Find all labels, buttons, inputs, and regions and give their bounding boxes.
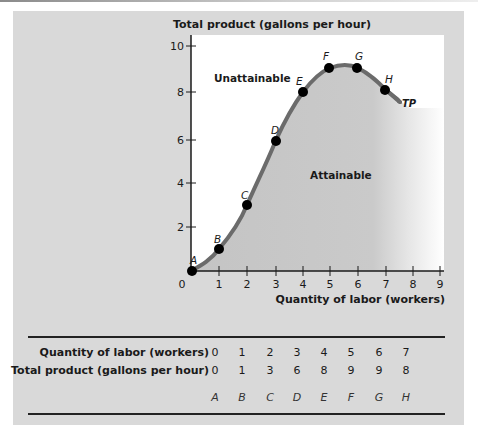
table-point-label: D <box>287 391 307 404</box>
y-tick-label: 6 <box>177 134 184 147</box>
x-tick-label: 8 <box>410 278 417 291</box>
point-label-g: G <box>355 50 363 62</box>
point-d <box>271 136 281 146</box>
table-cell: 1 <box>232 364 252 377</box>
table-cell: 8 <box>396 364 416 377</box>
table-cell: 7 <box>396 346 416 359</box>
unattainable-label: Unattainable <box>214 72 291 84</box>
table-cell: 1 <box>232 346 252 359</box>
point-h <box>380 85 390 95</box>
point-b <box>214 244 224 254</box>
y-tick-label: 2 <box>177 221 184 234</box>
table-cell: 5 <box>341 346 361 359</box>
point-label-f: F <box>323 50 330 62</box>
table-cell: 0 <box>205 346 225 359</box>
table-cell: 2 <box>260 346 280 359</box>
table-cell: 9 <box>369 364 389 377</box>
table-bottom-rule <box>28 413 445 415</box>
table-row-point-labels: A B C D E F G H <box>28 391 445 405</box>
table-cell: 0 <box>205 364 225 377</box>
table-cell: 9 <box>341 364 361 377</box>
row-label: Quantity of labor (workers) <box>40 346 209 359</box>
attainable-label: Attainable <box>310 169 372 181</box>
x-tick-label: 2 <box>244 278 251 291</box>
x-tick-label: 9 <box>437 278 444 291</box>
table-point-label: B <box>232 391 252 404</box>
table-top-rule <box>28 336 445 338</box>
x-tick-label: 5 <box>327 278 334 291</box>
point-label-h: H <box>385 73 393 85</box>
table-point-label: A <box>205 391 225 404</box>
table-cell: 8 <box>314 364 334 377</box>
table-cell: 4 <box>314 346 334 359</box>
tp-curve-label: TP <box>402 98 417 109</box>
x-tick-label: 6 <box>355 278 362 291</box>
table-row-labor: Quantity of labor (workers) 0 1 2 3 4 5 … <box>28 346 445 360</box>
point-label-b: B <box>214 233 221 245</box>
x-tick-label: 4 <box>300 278 307 291</box>
x-tick-label: 0 <box>179 278 186 291</box>
point-f <box>324 63 334 73</box>
point-label-c: C <box>241 189 249 201</box>
x-tick-label: 7 <box>383 278 390 291</box>
y-tick-label: 10 <box>170 40 184 53</box>
table-cell: 6 <box>369 346 389 359</box>
table-cell: 3 <box>260 364 280 377</box>
point-label-a: A <box>189 254 197 266</box>
point-g <box>352 63 362 73</box>
y-tick-label: 4 <box>177 177 184 190</box>
x-tick-label: 3 <box>273 278 280 291</box>
point-label-e: E <box>296 75 303 87</box>
point-a <box>187 266 197 276</box>
table-cell: 3 <box>287 346 307 359</box>
row-label: Total product (gallons per hour) <box>11 364 209 377</box>
y-axis-title: Total product (gallons per hour) <box>173 18 371 31</box>
table-point-label: F <box>341 391 361 404</box>
point-label-d: D <box>271 124 279 136</box>
table-point-label: H <box>396 391 416 404</box>
x-tick-label: 1 <box>216 278 223 291</box>
x-axis-title: Quantity of labor (workers) <box>276 293 445 306</box>
point-c <box>242 200 252 210</box>
table-row-total-product: Total product (gallons per hour) 0 1 3 6… <box>28 364 445 378</box>
table-point-label: G <box>369 391 389 404</box>
table-point-label: C <box>260 391 280 404</box>
table-cell: 6 <box>287 364 307 377</box>
table-point-label: E <box>314 391 334 404</box>
y-tick-label: 8 <box>177 86 184 99</box>
point-e <box>298 87 308 97</box>
